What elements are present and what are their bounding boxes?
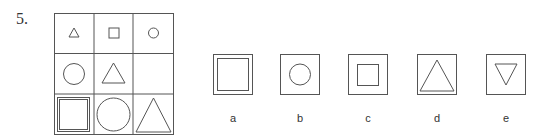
inverted-triangle-icon [495, 64, 517, 85]
large-triangle-icon [136, 98, 171, 132]
option-e-label[interactable]: e [486, 112, 526, 124]
option-b-figure[interactable] [280, 54, 320, 95]
question-number: 5. [16, 10, 28, 28]
large-circle-icon [97, 98, 130, 131]
medium-triangle-icon [102, 63, 125, 83]
large-double-square-inner-icon [60, 100, 88, 130]
option-e-figure[interactable] [486, 54, 526, 95]
option-c-label[interactable]: c [348, 112, 388, 124]
large-double-square-outer-icon [58, 98, 90, 132]
shape-matrix [54, 13, 175, 136]
option-b-label[interactable]: b [280, 112, 320, 124]
option-d-label[interactable]: d [417, 112, 457, 124]
small-square-icon [109, 28, 119, 38]
option-c-figure[interactable] [348, 54, 388, 95]
square-icon [358, 65, 379, 86]
small-circle-icon [149, 28, 159, 38]
medium-circle-icon [64, 64, 85, 85]
option-d-figure[interactable] [417, 54, 457, 95]
small-triangle-icon [69, 28, 79, 37]
circle-icon [290, 64, 311, 85]
option-a-figure[interactable] [213, 54, 253, 95]
triangle-icon [420, 60, 454, 91]
option-a-label[interactable]: a [213, 112, 253, 124]
double-square-icon [218, 59, 249, 91]
